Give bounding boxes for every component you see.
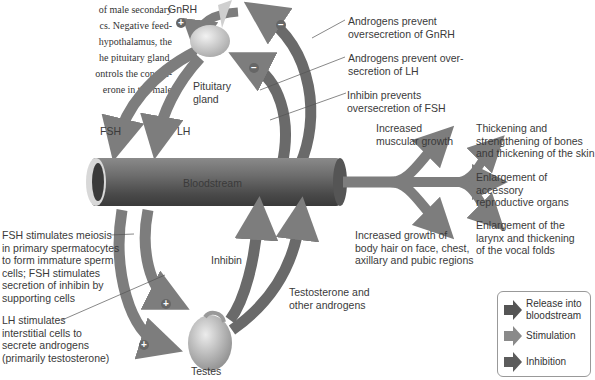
inhibition-arrow-icon [504,352,522,372]
effect-larynx: Enlargement of the larynx and thickening… [476,219,575,257]
plus-sign-gnrh: + [176,18,186,28]
effect-hair: Increased growth of body hair on face, c… [355,229,473,267]
stimulation-arrow-icon [504,326,522,346]
legend: Release into bloodstream Stimulation Inh… [497,291,591,377]
release-arrow-icon [504,300,522,320]
lh-label: LH [177,125,190,138]
pituitary-gland-image [190,25,230,57]
gnrh-label: GnRH [168,3,197,16]
testosterone-arrow [232,218,300,330]
feedback-note-lh: Androgens prevent over- secretion of LH [348,52,464,77]
inhibin-label: Inhibin [211,254,242,267]
fsh-label: FSH [100,125,121,138]
lh-testes-note: LH stimulates interstitial cells to secr… [2,314,109,364]
testosterone-label: Testosterone and other androgens [289,286,370,311]
fsh-to-testes-arrow [145,210,170,300]
legend-item-inhibition: Inhibition [504,352,566,372]
effect-muscular: Increased muscular growth [376,122,453,147]
feedback-note-gnrh: Androgens prevent oversecretion of GnRH [348,15,455,40]
legend-item-release: Release into bloodstream [504,298,582,322]
fsh-testes-note: FSH stimulates meiosis in primary sperma… [2,229,119,304]
testis-image [188,315,232,371]
feedback-note-fsh: Inhibin prevents oversecretion of FSH [347,89,446,114]
legend-item-stimulation: Stimulation [504,326,575,346]
bloodstream-label: Bloodstream [183,177,242,190]
effect-bones: Thickening and strengthening of bones an… [476,122,595,160]
plus-sign-fsh: + [161,299,171,309]
minus-sign-lh: − [249,63,259,73]
effect-organs: Enlargement of accessory reproductive or… [476,171,569,209]
pituitary-feedback-arrow [248,62,285,165]
testes-label: Testes [191,365,221,378]
plus-sign-lh: + [139,340,149,350]
minus-sign-gnrh: − [276,20,286,30]
pituitary-label: Pituitary gland [193,80,231,105]
